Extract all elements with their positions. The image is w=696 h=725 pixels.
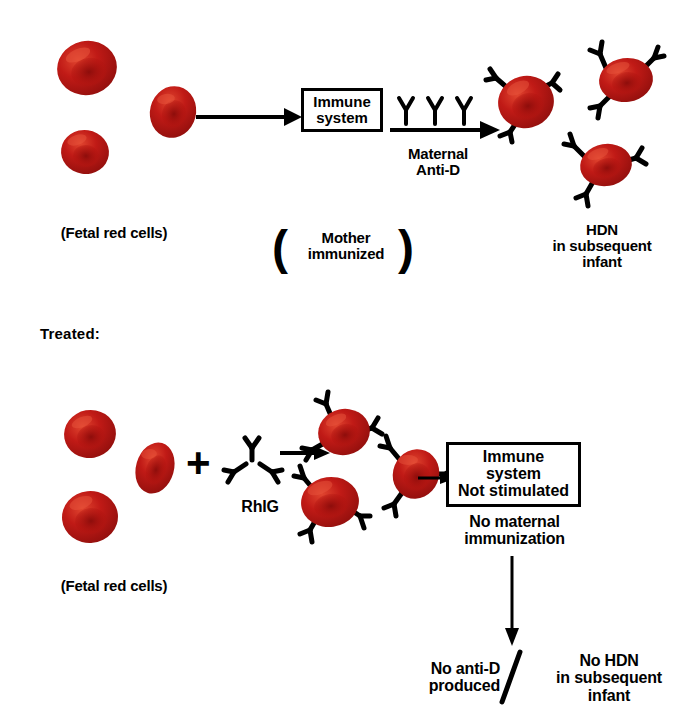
- red-blood-cell: [144, 81, 201, 143]
- no-hdn-outcome-label: No HDN in subsequent infant: [524, 652, 694, 704]
- red-blood-cell: [58, 127, 112, 177]
- mother-immunized-label: Mother immunized: [290, 230, 402, 262]
- plus-sign: +: [186, 442, 211, 484]
- antibody-icon: [380, 436, 400, 460]
- paren-close: ): [398, 224, 414, 272]
- hdn-outcome-label-untreated: HDN in subsequent infant: [508, 222, 696, 271]
- red-blood-cell: [130, 438, 181, 498]
- treated-section-label: Treated:: [40, 325, 100, 342]
- arrow-maternal-anti-d: [390, 118, 502, 142]
- antibody-icon: [590, 42, 606, 68]
- antibody-coated-cells-untreated: [490, 28, 690, 208]
- maternal-anti-d-label: Maternal Anti-D: [378, 146, 498, 178]
- outcome-divider-slash: [498, 650, 526, 706]
- immune-system-box-untreated: Immune system: [301, 88, 383, 132]
- paren-open: (: [272, 224, 288, 272]
- antibody-icon: [224, 464, 246, 482]
- red-blood-cell: [314, 404, 374, 460]
- red-blood-cell: [52, 35, 122, 100]
- figure-canvas: (Fetal red cells) Immune system: [0, 0, 696, 725]
- arrow-to-immune-system-untreated: [196, 105, 304, 129]
- antibody-icon: [245, 438, 259, 460]
- red-blood-cell: [493, 70, 560, 134]
- fetal-red-cells-label-untreated: (Fetal red cells): [14, 225, 214, 241]
- rhig-label: RhIG: [215, 498, 305, 515]
- fetal-red-cells-label-treated: (Fetal red cells): [14, 578, 214, 594]
- antibody-icon: [260, 464, 282, 482]
- arrow-down-to-outcome: [500, 556, 524, 648]
- mother-immunized-group: ( Mother immunized ): [272, 228, 420, 276]
- antibody-icon: [384, 490, 404, 516]
- no-maternal-immunization-label: No maternal immunization: [442, 513, 587, 548]
- antibody-icon: [576, 180, 594, 206]
- antibody-icon: [564, 134, 586, 158]
- no-anti-d-produced-label: No anti-D produced: [370, 660, 500, 695]
- red-blood-cell: [60, 406, 120, 462]
- red-blood-cell: [577, 140, 636, 190]
- red-blood-cell: [59, 488, 120, 546]
- immune-system-box-treated: Immune system Not stimulated: [446, 442, 581, 507]
